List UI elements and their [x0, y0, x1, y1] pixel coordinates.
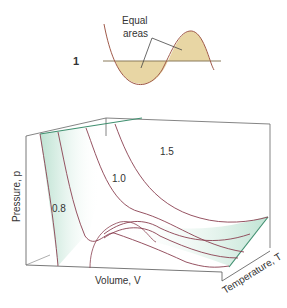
isotherm-1.5 — [115, 124, 268, 222]
van-der-waals-diagram: Equal areas 1 0.8 1.0 1.5 Pressure, — [0, 0, 287, 308]
annotation-equal: Equal — [122, 15, 148, 26]
isotherm-label-1.0: 1.0 — [112, 173, 126, 184]
inset-marker: 1 — [73, 55, 79, 67]
isotherm-label-1.5: 1.5 — [160, 146, 174, 157]
isotherm-label-0.8: 0.8 — [52, 203, 66, 214]
axis-label-pressure: Pressure, p — [11, 170, 22, 222]
axis-label-volume: Volume, V — [95, 275, 141, 286]
equal-areas-inset: Equal areas 1 — [73, 15, 221, 85]
surface-tint-right — [120, 216, 268, 266]
annotation-areas: areas — [123, 28, 148, 39]
pvt-surface: 0.8 1.0 1.5 Pressure, p Volume, V Temper… — [11, 118, 283, 296]
